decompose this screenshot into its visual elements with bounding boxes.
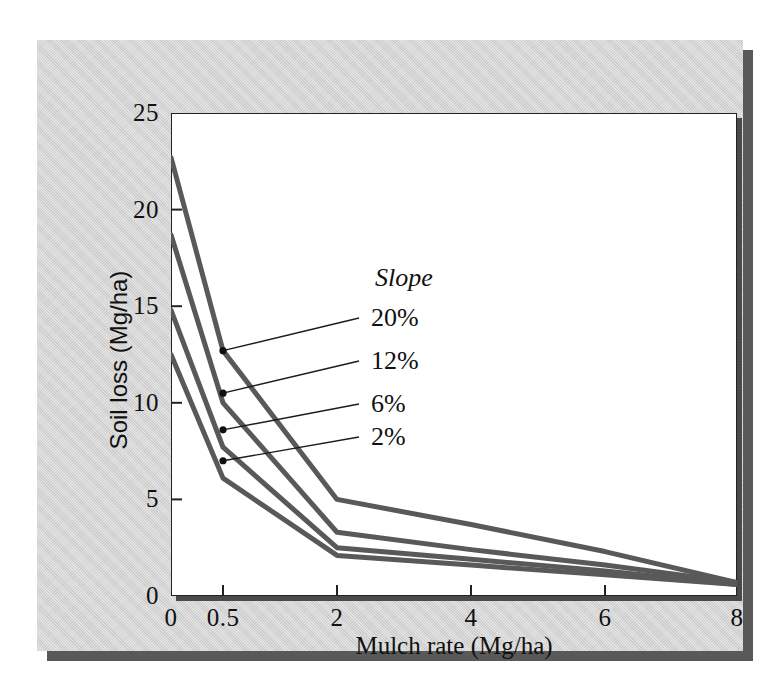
chart-svg: [171, 113, 737, 596]
callout-anchor-dot: [219, 347, 226, 354]
x-axis-title: Mulch rate (Mg/ha): [171, 632, 737, 660]
callout-leader-6pct: [223, 404, 359, 430]
x-tick-label: 8: [731, 604, 744, 632]
series-line-20pct: [171, 157, 737, 582]
x-tick-label: 6: [599, 604, 612, 632]
y-tick-label: 25: [109, 99, 159, 127]
x-tick-label: 0.5: [207, 604, 240, 632]
series-label-2pct: 2%: [371, 422, 406, 452]
callout-anchor-dot: [219, 426, 226, 433]
x-tick-label: 0: [165, 604, 178, 632]
callout-leader-20pct: [223, 318, 359, 351]
legend-title: Slope: [375, 263, 433, 293]
series-label-6pct: 6%: [371, 389, 406, 419]
y-axis-title: Soil loss (Mg/ha): [105, 210, 133, 510]
series-label-20pct: 20%: [371, 303, 419, 333]
figure-root: 0510152025 00.52468 Mulch rate (Mg/ha) S…: [0, 0, 768, 695]
series-label-12pct: 12%: [371, 346, 419, 376]
callout-leaders-layer: [219, 318, 359, 464]
x-tick-label: 4: [465, 604, 478, 632]
series-line-12pct: [171, 235, 737, 583]
figure-panel: 0510152025 00.52468 Mulch rate (Mg/ha) S…: [37, 40, 743, 651]
series-lines-layer: [171, 157, 737, 584]
y-tick-label: 0: [109, 582, 159, 610]
callout-anchor-dot: [219, 390, 226, 397]
series-line-6pct: [171, 310, 737, 584]
callout-anchor-dot: [219, 457, 226, 464]
x-tick-label: 2: [331, 604, 344, 632]
